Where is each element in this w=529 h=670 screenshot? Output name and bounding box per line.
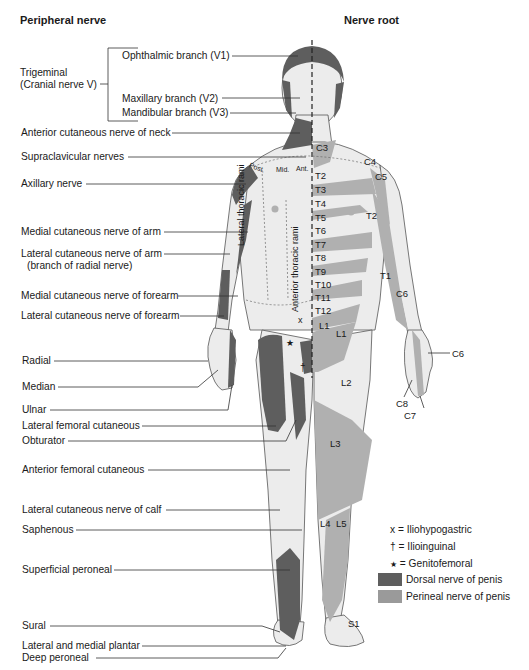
root-T9: T9 <box>315 266 326 277</box>
label-ant: Ant. <box>296 165 308 172</box>
label-anterior-thoracic-rami: Anterior thoracic rami <box>290 226 300 312</box>
label-saphenous: Saphenous <box>22 524 74 536</box>
root-C3: C3 <box>316 142 328 153</box>
root-C6-arm: C6 <box>396 288 408 299</box>
label-lateral-cut-arm: Lateral cutaneous nerve of arm <box>21 248 162 260</box>
root-L1: L1 <box>319 320 330 331</box>
legend-item-ilioinguinal: † = Ilioinguinal <box>390 541 455 553</box>
label-lateral-cut-arm-sub: (branch of radial nerve) <box>27 260 132 272</box>
root-L2: L2 <box>341 377 352 388</box>
nerve-root-header: Nerve root <box>344 14 399 26</box>
label-lateral-thoracic-rami: Lateral thoracic rami <box>236 164 246 246</box>
root-C8: C8 <box>396 398 408 409</box>
legend-label-dorsal: Dorsal nerve of penis <box>406 574 502 586</box>
label-trigeminal: Trigeminal <box>20 67 67 79</box>
label-lateral-cut-forearm: Lateral cutaneous nerve of forearm <box>21 310 180 322</box>
label-mandibular: Mandibular branch (V3) <box>122 107 228 119</box>
root-C7: C7 <box>404 410 416 421</box>
legend-swatch-perineal <box>378 590 402 603</box>
label-deep-peroneal: Deep peroneal <box>22 652 89 664</box>
label-ant-cut-neck: Anterior cutaneous nerve of neck <box>21 127 171 139</box>
root-C4: C4 <box>364 156 376 167</box>
root-T7: T7 <box>315 239 326 250</box>
label-axillary: Axillary nerve <box>21 178 82 190</box>
label-radial: Radial <box>22 355 51 367</box>
label-anterior-femoral: Anterior femoral cutaneous <box>22 464 144 476</box>
label-maxillary: Maxillary branch (V2) <box>122 93 218 105</box>
root-T1: T1 <box>380 270 391 281</box>
legend-label-perineal: Perineal nerve of penis <box>406 591 510 603</box>
label-ophthalmic: Ophthalmic branch (V1) <box>122 50 230 62</box>
label-superficial-peroneal: Superficial peroneal <box>22 564 112 576</box>
label-plantar: Lateral and medial plantar <box>22 640 140 652</box>
root-L1b: L1 <box>336 328 347 339</box>
root-T2-arm: T2 <box>366 210 377 221</box>
root-L4: L4 <box>320 518 331 529</box>
genitofemoral-mark: ★ <box>286 338 294 348</box>
label-trigeminal-sub: (Cranial nerve V) <box>20 79 97 91</box>
ilioinguinal-mark: † <box>300 362 306 373</box>
label-lateral-femoral: Lateral femoral cutaneous <box>22 420 140 432</box>
root-T8: T8 <box>315 252 326 263</box>
legend-item-iliohypogastric: x = Iliohypogastric <box>390 524 472 536</box>
root-L5: L5 <box>336 518 347 529</box>
label-supraclavicular: Supraclavicular nerves <box>21 151 124 163</box>
iliohypogastric-mark: x <box>298 315 303 325</box>
root-T10: T10 <box>315 279 331 290</box>
label-obturator: Obturator <box>22 435 65 447</box>
legend-swatch-dorsal <box>378 573 402 586</box>
label-medial-cut-forearm: Medial cutaneous nerve of forearm <box>21 290 178 302</box>
root-S1: S1 <box>348 618 360 629</box>
peripheral-nerve-header: Peripheral nerve <box>20 14 106 26</box>
root-T6: T6 <box>315 225 326 236</box>
root-T5: T5 <box>315 212 326 223</box>
root-C5: C5 <box>375 171 387 182</box>
label-mid: Mid. <box>276 166 289 173</box>
label-median: Median <box>22 381 55 393</box>
root-T12: T12 <box>315 305 331 316</box>
label-ulnar: Ulnar <box>22 404 46 416</box>
root-C6-hand: C6 <box>452 348 464 359</box>
label-medial-cut-arm: Medial cutaneous nerve of arm <box>21 226 161 238</box>
root-T2: T2 <box>315 170 326 181</box>
label-sural: Sural <box>22 620 46 632</box>
legend-item-genitofemoral: ★ = Genitofemoral <box>390 558 473 571</box>
root-T3: T3 <box>315 184 326 195</box>
label-lateral-cut-calf: Lateral cutaneous nerve of calf <box>22 504 161 516</box>
root-L3: L3 <box>330 438 341 449</box>
root-T4: T4 <box>315 198 326 209</box>
root-T11: T11 <box>315 292 331 303</box>
